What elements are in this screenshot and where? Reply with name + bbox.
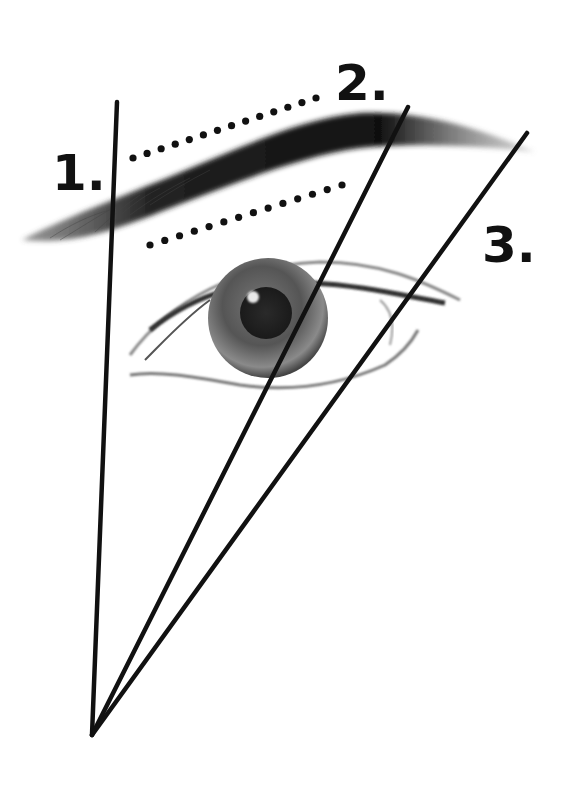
eyebrow-mapping-diagram: 1. 2. 3. <box>0 0 578 796</box>
guide-dot <box>146 241 153 248</box>
guide-dot <box>242 117 249 124</box>
guide-dot <box>256 113 263 120</box>
guide-dot <box>298 99 305 106</box>
guide-dot <box>309 191 316 198</box>
eye-highlight <box>247 291 259 303</box>
label-1: 1. <box>52 144 106 202</box>
guide-dot <box>250 209 257 216</box>
guide-dot <box>324 186 331 193</box>
guide-line-3 <box>92 133 527 735</box>
guide-dot <box>143 150 150 157</box>
guide-dot <box>284 104 291 111</box>
guide-dot <box>200 131 207 138</box>
label-3: 3. <box>482 216 536 274</box>
guide-dot <box>338 181 345 188</box>
guide-dot <box>176 232 183 239</box>
guide-dot <box>205 223 212 230</box>
guide-dot <box>220 218 227 225</box>
guide-dot <box>270 108 277 115</box>
guide-dot <box>161 237 168 244</box>
guide-dot <box>172 141 179 148</box>
guide-dot <box>312 94 319 101</box>
guide-dot <box>235 214 242 221</box>
guide-dot <box>228 122 235 129</box>
eye <box>130 258 460 388</box>
guide-dot <box>129 154 136 161</box>
guide-dot <box>265 204 272 211</box>
guide-dot <box>294 195 301 202</box>
guide-dot <box>186 136 193 143</box>
guide-dot <box>279 200 286 207</box>
guide-dot <box>158 145 165 152</box>
guide-dot <box>191 228 198 235</box>
label-2: 2. <box>335 54 389 112</box>
guide-dot <box>214 127 221 134</box>
